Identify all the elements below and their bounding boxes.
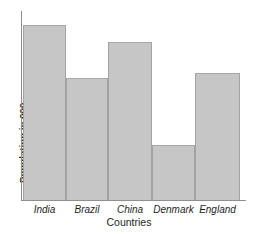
- bar-india: [23, 25, 66, 200]
- bar-denmark: [152, 145, 195, 200]
- bars-container: IndiaBrazilChinaDenmarkEngland: [0, 0, 258, 234]
- bar-china: [108, 42, 152, 200]
- bar-chart: Population in 000 IndiaBrazilChinaDenmar…: [0, 0, 258, 234]
- bar-brazil: [66, 78, 108, 200]
- bar-england: [195, 73, 240, 200]
- x-axis-title: Countries: [0, 215, 258, 229]
